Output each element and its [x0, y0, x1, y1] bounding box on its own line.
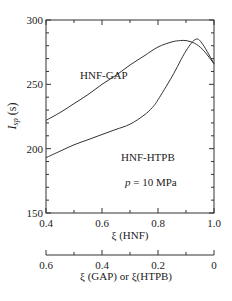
- secondary-x-tick-label: 0.6: [39, 259, 53, 271]
- x-tick-label: 0.4: [39, 217, 53, 229]
- series-line-hnf-htpb: [46, 39, 214, 158]
- secondary-x-axis: 0.60.40.20: [39, 250, 217, 271]
- data-series: [46, 39, 214, 158]
- x-tick-label: 0.8: [151, 217, 165, 229]
- x-tick-label: 0.6: [95, 217, 109, 229]
- y-tick-label: 300: [27, 14, 44, 26]
- series-label-hnf-gap: HNF-GAP: [80, 69, 128, 81]
- y-tick-label: 250: [27, 78, 44, 90]
- y-axis-label: Isp (s): [5, 103, 20, 131]
- secondary-x-axis-label: ξ (GAP) or ξ(HTPB): [80, 270, 172, 283]
- y-tick-label: 200: [27, 143, 44, 155]
- series-line-hnf-gap: [46, 40, 214, 120]
- y-axis-ticks: 150200250300: [27, 14, 215, 219]
- x-tick-label: 1.0: [207, 217, 221, 229]
- pressure-annotation: p = 10 MPa: [124, 176, 177, 188]
- x-axis-label: ξ (HNF): [112, 229, 149, 242]
- series-label-hnf-htpb: HNF-HTPB: [121, 151, 175, 163]
- secondary-x-tick-label: 0: [211, 259, 217, 271]
- chart: 150200250300 0.40.60.81.0 0.60.40.20 Isp…: [0, 0, 232, 301]
